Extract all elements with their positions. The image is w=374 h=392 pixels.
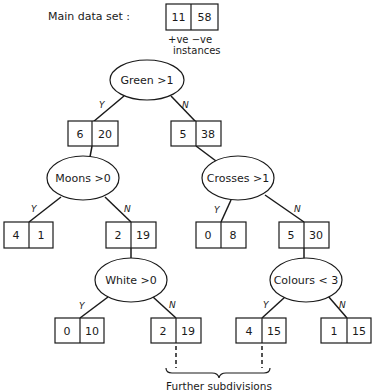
main-data-set: Main data set : 11 58 +ve −ve instances [48, 4, 221, 56]
no-label: N [339, 300, 346, 310]
count-box-white-yes: 0 10 [55, 318, 104, 343]
no-label: N [182, 100, 189, 110]
neg-count: 20 [98, 128, 112, 141]
count-box-moons-yes: 4 1 [4, 222, 53, 248]
yes-label: Y [263, 300, 270, 310]
neg-count: 38 [201, 128, 215, 141]
pos-count: 5 [180, 128, 187, 141]
test-label: Green >1 [120, 74, 173, 87]
count-box-moons-no: 2 19 [106, 222, 156, 248]
main-pos-count: 11 [172, 11, 186, 24]
count-box-green-yes: 6 20 [68, 121, 118, 146]
neg-count: 15 [352, 325, 366, 338]
yes-label: Y [79, 301, 86, 311]
neg-count: 30 [309, 229, 323, 242]
neg-count: 19 [181, 325, 195, 338]
neg-count: 19 [136, 229, 150, 242]
brace-icon [166, 368, 270, 378]
count-box-white-no: 2 19 [151, 318, 201, 343]
pos-count: 4 [246, 325, 253, 338]
pos-count: 5 [288, 229, 295, 242]
test-node-colours: Colours < 3 [270, 258, 342, 302]
count-box-green-no: 5 38 [171, 121, 221, 146]
diagram-svg: Main data set : 11 58 +ve −ve instances … [0, 0, 374, 392]
pos-count: 0 [64, 325, 71, 338]
further-subdivisions: Further subdivisions [166, 346, 272, 392]
neg-count: 10 [85, 325, 99, 338]
further-subdivisions-label: Further subdivisions [166, 380, 272, 392]
yes-label: Y [214, 205, 221, 215]
no-label: N [294, 204, 301, 214]
neg-count: 8 [230, 229, 237, 242]
test-label: Crosses >1 [207, 172, 269, 185]
count-box-colours-yes: 4 15 [236, 318, 286, 343]
test-label: Colours < 3 [274, 274, 339, 287]
neg-count: 1 [38, 229, 45, 242]
no-label: N [169, 300, 176, 310]
test-node-green: Green >1 [110, 60, 184, 100]
test-node-crosses: Crosses >1 [202, 156, 274, 200]
test-node-moons: Moons >0 [47, 156, 119, 200]
instances-label: instances [173, 45, 221, 56]
main-data-set-label: Main data set : [48, 10, 130, 23]
no-label: N [124, 204, 131, 214]
pos-count: 0 [205, 229, 212, 242]
test-label: White >0 [105, 274, 157, 287]
neg-count: 15 [267, 325, 281, 338]
decision-tree-diagram: Main data set : 11 58 +ve −ve instances … [0, 0, 374, 392]
pos-count: 4 [13, 229, 20, 242]
test-label: Moons >0 [55, 172, 110, 185]
yes-label: Y [31, 204, 38, 214]
count-box-crosses-no: 5 30 [279, 222, 329, 248]
pos-count: 6 [77, 128, 84, 141]
pos-count: 2 [160, 325, 167, 338]
column-legend: +ve −ve [168, 34, 212, 45]
test-node-white: White >0 [95, 258, 167, 302]
pos-count: 2 [115, 229, 122, 242]
pos-count: 1 [331, 325, 338, 338]
count-box-colours-no: 1 15 [321, 318, 371, 343]
main-neg-count: 58 [198, 11, 212, 24]
count-box-crosses-yes: 0 8 [196, 222, 246, 248]
yes-label: Y [99, 100, 106, 110]
